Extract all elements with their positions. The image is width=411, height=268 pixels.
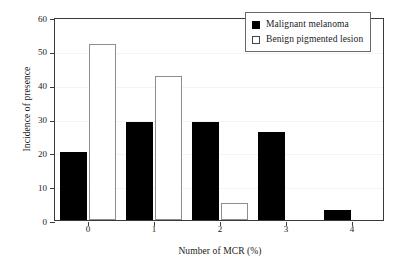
y-axis-tick-mark — [50, 154, 55, 155]
bar — [324, 210, 351, 220]
x-axis-tick-label: 2 — [200, 225, 240, 234]
bar — [60, 152, 87, 220]
legend-item-label: Benign pigmented lesion — [266, 35, 363, 45]
y-axis-tick-label: 30 — [15, 116, 47, 125]
outlined-square-icon — [252, 36, 260, 44]
x-axis-tick-label: 0 — [68, 225, 108, 234]
bar — [258, 132, 285, 220]
x-axis-tick-label: 4 — [332, 225, 372, 234]
x-axis-tick-label: 1 — [134, 225, 174, 234]
bar-chart-figure: Incidence of presence Number of MCR (%) … — [0, 0, 411, 268]
y-axis-tick-mark — [50, 19, 55, 20]
y-axis-tick-mark — [50, 121, 55, 122]
y-axis-tick-mark — [50, 188, 55, 189]
legend-item: Benign pigmented lesion — [252, 32, 363, 47]
legend-item: Malignant melanoma — [252, 17, 363, 32]
chart-legend: Malignant melanomaBenign pigmented lesio… — [245, 12, 371, 52]
y-axis-tick-label: 50 — [15, 48, 47, 57]
y-axis-tick-label: 0 — [15, 218, 47, 227]
x-axis-tick-mark — [88, 222, 89, 226]
x-axis-tick-mark — [154, 222, 155, 226]
x-axis-tick-mark — [220, 222, 221, 226]
y-axis-tick-label: 10 — [15, 184, 47, 193]
x-axis-tick-label: 3 — [266, 225, 306, 234]
x-axis-tick-mark — [286, 222, 287, 226]
y-axis-tick-mark — [50, 222, 55, 223]
bar — [126, 122, 153, 220]
bar — [155, 76, 182, 220]
filled-square-icon — [252, 21, 260, 29]
y-axis-tick-mark — [50, 87, 55, 88]
bar — [221, 203, 248, 220]
y-axis-tick-label: 20 — [15, 150, 47, 159]
y-axis-tick-mark — [50, 53, 55, 54]
bar — [89, 44, 116, 220]
y-axis-tick-label: 40 — [15, 82, 47, 91]
bar — [192, 122, 219, 220]
x-axis-label: Number of MCR (%) — [55, 246, 385, 256]
y-axis-tick-label: 60 — [15, 15, 47, 24]
x-axis-tick-mark — [352, 222, 353, 226]
legend-item-label: Malignant melanoma — [266, 20, 349, 30]
